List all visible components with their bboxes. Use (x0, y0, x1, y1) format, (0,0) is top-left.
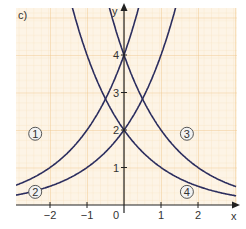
curve-label-2: 2 (29, 185, 42, 198)
curve-label-3: 3 (180, 127, 193, 140)
svg-text:3: 3 (184, 128, 190, 140)
y-tick-label: 1 (113, 162, 119, 174)
x-axis-label: x (231, 210, 237, 222)
svg-text:2: 2 (32, 186, 38, 198)
panel-label: c) (18, 9, 27, 21)
y-tick-label: 3 (113, 87, 119, 99)
chart-svg: −2−10121234 x y c) 1234 (0, 0, 246, 229)
x-tick-label: 0 (113, 209, 119, 221)
grid (16, 8, 237, 205)
svg-text:4: 4 (184, 186, 190, 198)
x-tick-label: 1 (158, 209, 164, 221)
curve-label-4: 4 (180, 185, 193, 198)
y-tick-label: 4 (113, 49, 119, 61)
curve-label-1: 1 (29, 127, 42, 140)
y-tick-label: 2 (113, 124, 119, 136)
svg-text:1: 1 (32, 128, 38, 140)
x-tick-label: −1 (81, 209, 94, 221)
y-axis-arrow-icon (121, 3, 128, 11)
x-tick-label: 2 (195, 209, 201, 221)
x-tick-label: −2 (44, 209, 57, 221)
y-axis-label: y (112, 5, 118, 17)
